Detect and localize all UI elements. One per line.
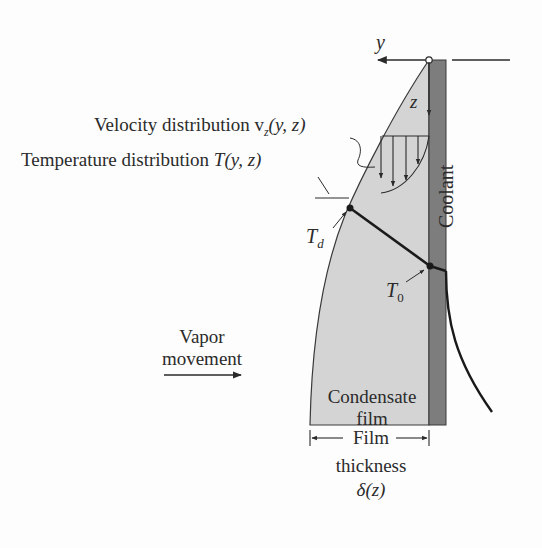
film-thickness-symbol: δ(z)	[316, 478, 426, 502]
temperature-distribution-label: Temperature distribution T(y, z)	[21, 150, 261, 169]
vapor-line2: movement	[150, 348, 254, 370]
td-point	[347, 205, 354, 212]
wall	[429, 60, 446, 425]
condensate-line1: Condensate	[314, 386, 430, 408]
vapor-line1: Vapor	[150, 326, 254, 348]
t0-point	[427, 263, 434, 270]
coolant-label: Coolant	[436, 165, 456, 228]
condensate-film-label: Condensate film	[314, 386, 430, 430]
t0-label: T0	[386, 280, 404, 304]
z-axis-label: z	[410, 92, 417, 111]
t0-symbol: T	[386, 279, 397, 301]
velocity-text: Velocity distribution v	[94, 114, 264, 135]
temperature-text: Temperature distribution	[21, 149, 214, 170]
y-axis-label: y	[376, 32, 385, 52]
film-thickness-line2: thickness	[316, 454, 426, 478]
temperature-args: (y, z)	[224, 149, 261, 170]
condensate-film-region	[310, 60, 429, 425]
td-label: Td	[306, 226, 324, 250]
velocity-args: (y, z)	[269, 114, 306, 135]
temperature-symbol: T	[214, 149, 225, 170]
film-thickness-label: thickness δ(z)	[316, 454, 426, 502]
temperature-profile-coolant	[446, 271, 492, 412]
film-label: Film	[336, 428, 406, 447]
td-subscript: d	[317, 236, 324, 251]
td-symbol: T	[306, 225, 317, 247]
t0-subscript: 0	[397, 290, 404, 305]
diagram-canvas: y z Velocity distribution vz(y, z) Tempe…	[0, 0, 542, 548]
temperature-leader-slant	[318, 177, 329, 194]
velocity-distribution-label: Velocity distribution vz(y, z)	[94, 115, 306, 138]
diagram-graphics	[0, 0, 542, 548]
vapor-movement-label: Vapor movement	[150, 326, 254, 370]
